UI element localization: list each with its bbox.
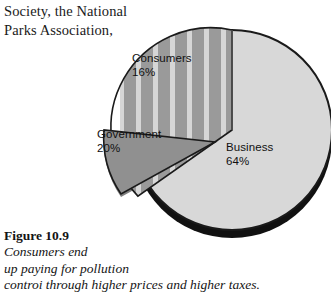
- consumers-label-percent: 16%: [132, 66, 192, 80]
- slice-label-consumers: Consumers 16%: [132, 52, 192, 79]
- body-text: Society, the National Parks Association,: [4, 2, 194, 40]
- business-label-percent: 64%: [226, 155, 273, 169]
- government-label-percent: 20%: [97, 142, 161, 156]
- body-text-line-2: Parks Association,: [4, 21, 194, 40]
- slice-label-business: Business 64%: [226, 141, 273, 168]
- figure-number: Figure 10.9: [4, 228, 254, 244]
- figure-caption-text: Consumers end up paying for pollution co…: [4, 244, 254, 294]
- business-label-text: Business: [226, 141, 273, 153]
- figure-page: Society, the National Parks Association,: [0, 0, 331, 294]
- slice-label-government: Government 20%: [97, 128, 161, 155]
- figure-caption: Figure 10.9 Consumers end up paying for …: [4, 228, 254, 294]
- caption-line-2: up paying for pollution: [4, 261, 254, 278]
- caption-line-3: controi through higher prices and higher…: [4, 277, 254, 294]
- caption-line-1: Consumers end: [4, 244, 254, 261]
- consumers-label-text: Consumers: [132, 52, 192, 64]
- body-text-line-1: Society, the National: [4, 2, 194, 21]
- government-label-text: Government: [97, 128, 161, 140]
